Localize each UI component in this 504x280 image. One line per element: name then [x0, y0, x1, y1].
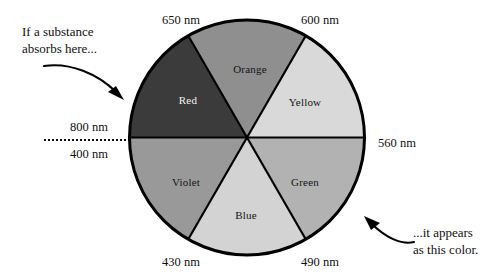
- wavelength-label-400: 400 nm: [70, 147, 108, 162]
- segment-label-green: Green: [291, 176, 319, 188]
- annotation-appears-as: ...it appears as this color.: [413, 225, 478, 258]
- annotation-absorbs-here: If a substance absorbs here...: [22, 24, 97, 57]
- arrow-curve-right: [372, 224, 414, 243]
- annotation-absorbs-line1: If a substance: [22, 24, 97, 41]
- segment-label-red: Red: [179, 94, 197, 106]
- arrow-curve-left: [44, 65, 116, 92]
- annotation-arrow-right: [356, 212, 418, 252]
- wavelength-label-800: 800 nm: [70, 120, 108, 135]
- annotation-appears-line2: as this color.: [413, 242, 478, 259]
- segment-label-blue: Blue: [235, 209, 257, 221]
- wavelength-label-560: 560 nm: [378, 136, 416, 151]
- wavelength-label-430: 430 nm: [162, 255, 200, 270]
- wavelength-wrap-dotted-line: [44, 139, 130, 141]
- annotation-absorbs-line2: absorbs here...: [22, 41, 97, 58]
- annotation-arrow-left: [40, 60, 150, 105]
- segment-label-orange: Orange: [233, 63, 267, 75]
- segment-label-violet: Violet: [172, 176, 200, 188]
- color-wheel-figure: Red Orange Yellow Green Blue Violet 650 …: [0, 0, 504, 280]
- segment-label-yellow: Yellow: [289, 96, 321, 108]
- color-wheel: Red Orange Yellow Green Blue Violet: [128, 12, 366, 263]
- wavelength-label-650: 650 nm: [162, 13, 200, 28]
- color-wheel-svg: [128, 12, 366, 263]
- wavelength-label-490: 490 nm: [301, 255, 339, 270]
- wavelength-label-600: 600 nm: [301, 13, 339, 28]
- annotation-appears-line1: ...it appears: [413, 225, 478, 242]
